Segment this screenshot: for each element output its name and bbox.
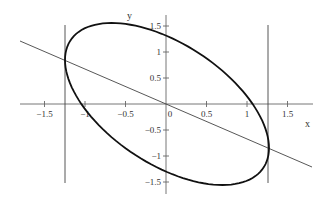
x-tick-label: 0.5 (201, 109, 213, 119)
y-axis-label: y (127, 10, 132, 21)
y-tick-label: −1.5 (145, 177, 162, 187)
x-tick-label: −1.5 (36, 109, 53, 119)
x-axis: −1.5−1−0.500.511.5 x (20, 101, 313, 129)
ellipse-line-plot: −1.5−1−0.500.511.5 x −1.5−1−0.50.511.5 y (0, 0, 329, 206)
x-axis-label: x (305, 118, 310, 129)
x-tick-label: 0 (168, 109, 173, 119)
x-tick-label: −0.5 (117, 109, 134, 119)
x-tick-label: 1 (245, 109, 250, 119)
x-tick-label: 1.5 (282, 109, 294, 119)
y-tick-label: −1 (151, 151, 161, 161)
y-tick-label: 1 (157, 47, 162, 57)
y-tick-label: −0.5 (145, 125, 162, 135)
y-tick-label: 0.5 (150, 73, 162, 83)
y-axis: −1.5−1−0.50.511.5 y (127, 10, 169, 194)
